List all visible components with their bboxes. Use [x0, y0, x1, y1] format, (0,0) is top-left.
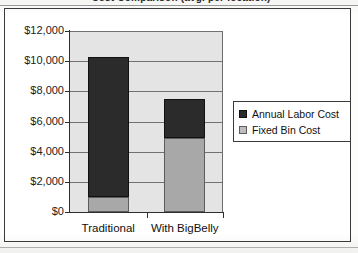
x-axis-label-with-bigbelly: With BigBelly [147, 222, 224, 235]
y-tick-mark-0 [65, 212, 70, 213]
y-axis-label-2000: $2,000 [0, 176, 64, 187]
y-tick-mark-2000 [65, 182, 70, 183]
y-tick-mark-10000 [65, 61, 70, 62]
y-tick-mark-12000 [65, 31, 70, 32]
y-axis-label-12000: $12,000 [0, 25, 64, 36]
chart-title-clipped: Cost Comparison (avg. per location) [66, 0, 296, 3]
bar-segment-with-bigbelly-fixed-bin-cost[interactable] [164, 138, 205, 212]
bar-group-traditional[interactable] [88, 31, 129, 212]
chart-legend: Annual Labor Cost Fixed Bin Cost [233, 101, 351, 142]
y-tick-mark-6000 [65, 122, 70, 123]
bar-segment-traditional-annual-labor-cost[interactable] [88, 57, 129, 197]
y-tick-mark-4000 [65, 152, 70, 153]
bar-segment-traditional-fixed-bin-cost[interactable] [88, 197, 129, 212]
page-bottom-rule [0, 247, 358, 248]
legend-label-annual-labor-cost: Annual Labor Cost [252, 108, 339, 120]
y-axis-label-4000: $4,000 [0, 146, 64, 157]
x-axis-label-traditional: Traditional [70, 222, 147, 235]
page-top-rule [0, 5, 358, 6]
legend-item-fixed-bin-cost: Fixed Bin Cost [239, 122, 346, 138]
y-axis-label-8000: $8,000 [0, 85, 64, 96]
legend-swatch-fixed-bin-cost [239, 126, 247, 134]
x-axis-divider-1 [223, 212, 224, 218]
bar-group-with-bigbelly[interactable] [164, 31, 205, 212]
y-tick-mark-8000 [65, 91, 70, 92]
y-axis-label-6000: $6,000 [0, 116, 64, 127]
bar-segment-with-bigbelly-annual-labor-cost[interactable] [164, 99, 205, 138]
y-axis-label-0: $0 [0, 206, 64, 217]
legend-item-annual-labor-cost: Annual Labor Cost [239, 106, 346, 122]
legend-label-fixed-bin-cost: Fixed Bin Cost [252, 124, 320, 136]
scanned-page: Cost Comparison (avg. per location) Annu… [0, 0, 358, 253]
x-axis-divider-0 [147, 212, 148, 218]
y-axis-label-10000: $10,000 [0, 55, 64, 66]
legend-swatch-annual-labor-cost [239, 110, 247, 118]
chart-frame: Annual Labor Cost Fixed Bin Cost $0$2,00… [4, 8, 351, 242]
